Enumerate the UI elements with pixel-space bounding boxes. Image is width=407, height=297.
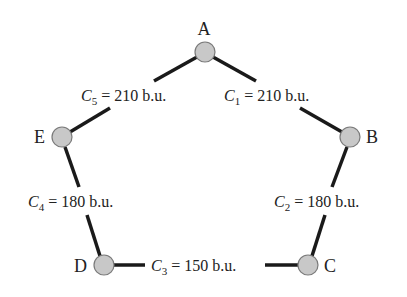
edge-e-a-upper bbox=[154, 57, 197, 81]
edge-symbol: C bbox=[28, 193, 39, 210]
edge-b-c-upper bbox=[332, 147, 347, 187]
edge-b-c-lower bbox=[312, 215, 325, 256]
edge-cost: = 180 b.u. bbox=[290, 193, 359, 210]
edge-symbol: C bbox=[81, 87, 92, 104]
edge-symbol: C bbox=[151, 257, 162, 274]
edge-e-a-lower bbox=[70, 108, 110, 132]
edge-cost: = 210 b.u. bbox=[240, 87, 309, 104]
edge-e-d-lower bbox=[87, 215, 100, 256]
node-b bbox=[340, 127, 360, 147]
edge-label-c4: C4 = 180 b.u. bbox=[28, 193, 113, 213]
edge-e-d-upper bbox=[65, 147, 79, 187]
edge-cost: = 150 b.u. bbox=[167, 257, 236, 274]
edge-symbol: C bbox=[274, 193, 285, 210]
node-c bbox=[298, 255, 318, 275]
edge-a-b-upper bbox=[213, 57, 256, 81]
edge-a-b-lower bbox=[300, 108, 342, 132]
edge-label-c5: C5 = 210 b.u. bbox=[81, 87, 166, 107]
node-d bbox=[94, 255, 114, 275]
edge-symbol: C bbox=[224, 87, 235, 104]
edge-label-c1: C1 = 210 b.u. bbox=[224, 87, 309, 107]
edge-label-c3: C3 = 150 b.u. bbox=[151, 257, 236, 277]
node-e bbox=[52, 127, 72, 147]
network-diagram: A B C D E C1 = 210 b.u. C2 = 180 b.u. C3… bbox=[0, 0, 407, 297]
edge-cost: = 210 b.u. bbox=[97, 87, 166, 104]
node-label-d: D bbox=[74, 256, 87, 276]
edge-cost: = 180 b.u. bbox=[44, 193, 113, 210]
node-label-b: B bbox=[366, 127, 378, 147]
nodes bbox=[52, 42, 360, 275]
node-label-c: C bbox=[324, 256, 336, 276]
edge-label-c2: C2 = 180 b.u. bbox=[274, 193, 359, 213]
node-a bbox=[195, 42, 215, 62]
node-label-a: A bbox=[198, 19, 211, 39]
node-label-e: E bbox=[34, 127, 45, 147]
